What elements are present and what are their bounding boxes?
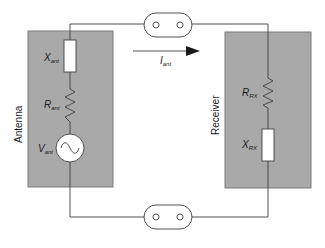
circuit-diagram: Iant Xant Rant Vant RRX XRX Antenna Rece…: [0, 0, 325, 248]
current-arrow-icon: [133, 46, 200, 56]
antenna-label: Antenna: [13, 105, 24, 143]
current-label: Iant: [160, 55, 171, 67]
ac-source-icon: [56, 134, 84, 162]
top-connector: [144, 13, 192, 37]
x-rx-reactance: [262, 129, 274, 161]
receiver-label: Receiver: [210, 95, 221, 135]
x-ant-reactance: [64, 40, 76, 72]
bottom-connector: [144, 205, 192, 229]
